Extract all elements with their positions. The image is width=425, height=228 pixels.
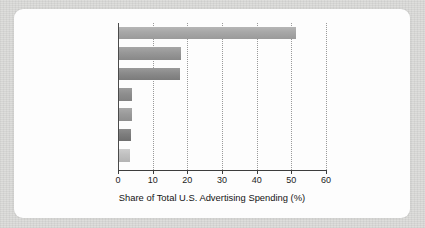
x-tick-label-20: 20 — [182, 176, 192, 185]
x-tick-0 — [118, 170, 119, 174]
x-tick-40 — [257, 170, 258, 174]
bar-television-ads — [119, 68, 180, 81]
gridline-50 — [291, 23, 292, 170]
bar-radio-ads — [119, 88, 132, 101]
x-tick-label-50: 50 — [286, 176, 296, 185]
bar-direct-marketing — [119, 27, 296, 40]
bar-magazine-ads — [119, 108, 132, 121]
bar-internet-advertising — [119, 47, 181, 60]
x-tick-30 — [222, 170, 223, 174]
x-tick-label-40: 40 — [252, 176, 262, 185]
gridline-10 — [153, 23, 154, 170]
gridline-30 — [222, 23, 223, 170]
x-tick-10 — [153, 170, 154, 174]
gridline-40 — [257, 23, 258, 170]
x-axis-title: Share of Total U.S. Advertising Spending… — [14, 193, 410, 202]
x-tick-label-30: 30 — [217, 176, 227, 185]
x-tick-label-60: 60 — [321, 176, 331, 185]
x-tick-50 — [291, 170, 292, 174]
chart-card: Direct marketing Internet advertising Te… — [14, 9, 410, 218]
x-tick-label-10: 10 — [148, 176, 158, 185]
x-tick-60 — [326, 170, 327, 174]
gridline-60 — [326, 23, 327, 170]
x-tick-label-0: 0 — [115, 176, 120, 185]
gridline-20 — [187, 23, 188, 170]
x-tick-20 — [187, 170, 188, 174]
bar-newspaper-ads — [119, 129, 131, 142]
bar-chart: Direct marketing Internet advertising Te… — [14, 9, 410, 218]
bar-other — [119, 149, 130, 162]
